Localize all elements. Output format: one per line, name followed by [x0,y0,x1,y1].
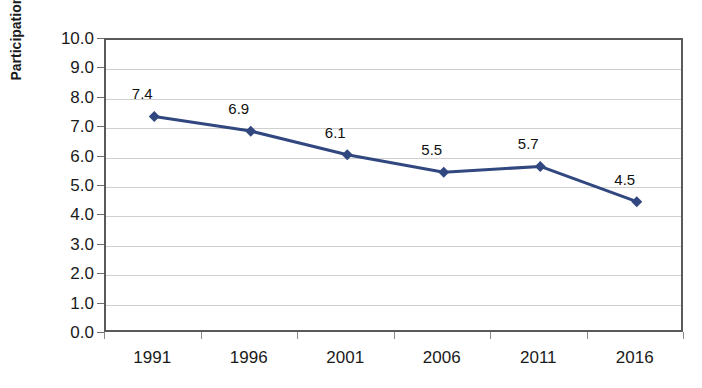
data-point-label: 6.1 [325,124,346,141]
y-axis-tick-mark [97,244,104,245]
x-axis-tick-label: 2001 [326,348,364,368]
y-axis-tick-label: 8.0 [32,88,94,105]
gridline [106,275,681,276]
line-chart: Participation Rate 10.09.08.07.06.05.04.… [0,0,702,388]
data-point-marker [149,111,160,122]
x-axis-tick-mark [201,332,202,339]
y-axis-tick-mark [97,273,104,274]
data-point-label: 5.7 [518,135,539,152]
x-axis-tick-label: 2006 [423,348,461,368]
gridline [106,305,681,306]
y-axis-tick-mark [97,67,104,68]
series-markers [149,111,643,207]
gridline [106,158,681,159]
data-point-label: 5.5 [421,141,442,158]
gridline [106,246,681,247]
gridline [106,69,681,70]
data-point-label: 6.9 [228,100,249,117]
data-point-marker [438,167,449,178]
x-axis-tick-mark [297,332,298,339]
data-point-marker [631,196,642,207]
y-axis-tick-mark [97,332,104,333]
plot-area: 7.46.96.15.55.74.5 [104,38,683,332]
x-axis-tick-mark [587,332,588,339]
y-axis-tick-label: 5.0 [32,177,94,194]
x-axis-tick-mark [394,332,395,339]
data-point-marker [535,161,546,172]
y-axis-tick-label: 1.0 [32,294,94,311]
y-axis-tick-label: 0.0 [32,324,94,341]
y-axis-tick-mark [97,126,104,127]
series-polyline [154,116,637,201]
y-axis-tick-label: 7.0 [32,118,94,135]
y-axis-tick-mark [97,156,104,157]
y-axis-tick-mark [97,97,104,98]
x-axis-tick-label: 2011 [520,348,557,368]
x-axis-tick-mark [104,332,105,339]
y-axis-tick-label: 3.0 [32,235,94,252]
x-axis-tick-label: 1996 [230,348,268,368]
y-axis-tick-mark [97,38,104,39]
data-point-label: 4.5 [614,171,635,188]
gridline [106,128,681,129]
y-axis-tick-mark [97,214,104,215]
gridline [106,99,681,100]
y-axis-tick-label: 4.0 [32,206,94,223]
x-axis-tick-label: 1991 [133,348,171,368]
y-axis-tick-label: 6.0 [32,147,94,164]
y-axis-tick-mark [97,303,104,304]
y-axis-tick-label: 2.0 [32,265,94,282]
chart-title [0,0,702,3]
data-point-label: 7.4 [132,85,153,102]
y-axis-tick-label: 9.0 [32,59,94,76]
y-axis-title: Participation Rate [6,0,26,116]
y-axis-tick-mark [97,185,104,186]
gridline [106,216,681,217]
gridline [106,187,681,188]
x-axis-tick-mark [683,332,684,339]
y-axis-tick-label: 10.0 [32,30,94,47]
x-axis-tick-mark [490,332,491,339]
x-axis-tick-label: 2016 [616,348,654,368]
